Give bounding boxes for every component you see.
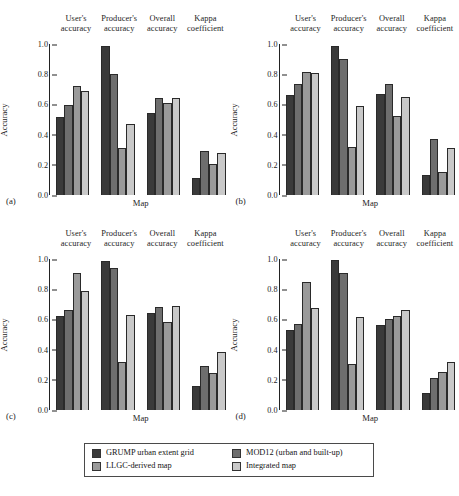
group-header-line1: Overall [149, 229, 175, 238]
bar [438, 372, 446, 410]
y-tick-label: 0.2 [38, 160, 48, 169]
bar-group [192, 44, 225, 195]
y-tick-label: 0.2 [267, 160, 277, 169]
y-tick-label: 0.0 [267, 191, 277, 200]
bar [209, 164, 217, 195]
group-header-line1: Kappa [194, 14, 216, 23]
bar [64, 105, 72, 195]
bar [286, 330, 294, 410]
legend-item-llgc: LLGC-derived map [92, 461, 226, 471]
group-header-line1: Producer's [101, 14, 137, 23]
plot-area-d: 1.00.80.60.40.20.0 Accuracy [286, 259, 456, 410]
bar-group [331, 44, 364, 195]
group-header-kappa-coefficient: Kappa coefficient [185, 14, 225, 44]
bar [192, 178, 200, 195]
group-header-line1: Producer's [331, 14, 367, 23]
bar [356, 317, 364, 410]
group-header-line2: coefficient [415, 239, 455, 249]
group-header-line2: accuracy [329, 239, 369, 249]
bar-group [101, 44, 134, 195]
bar [118, 362, 126, 410]
group-header-line1: Producer's [101, 229, 137, 238]
y-axis-label: Accuracy [0, 318, 9, 351]
bar [64, 310, 72, 410]
y-tick-label: 0.2 [38, 375, 48, 384]
x-axis-label: Map [286, 198, 456, 208]
panel-grid: User's accuracy Producer's accuracy Over… [0, 0, 459, 430]
group-header-kappa-coefficient: Kappa coefficient [415, 14, 455, 44]
bar-group [286, 44, 319, 195]
group-header-line1: User's [65, 229, 86, 238]
plot-area-b: 1.00.80.60.40.20.0 Accuracy [286, 44, 456, 195]
legend-item-integrated: Integrated map [232, 461, 366, 471]
panel-tag-d: (d) [236, 411, 246, 421]
y-axis-label: Accuracy [229, 318, 239, 351]
group-header-line2: accuracy [329, 24, 369, 34]
group-header-overall-accuracy: Overall accuracy [372, 14, 412, 44]
y-axis-ticks-c: 1.00.80.60.40.20.0 [16, 259, 48, 410]
bar [56, 316, 64, 410]
group-header-line2: accuracy [56, 239, 96, 249]
bar [385, 84, 393, 195]
plot-area-a: 1.00.80.60.40.20.0 Accuracy [56, 44, 226, 195]
bar [311, 73, 319, 195]
figure-accuracy-comparison: User's accuracy Producer's accuracy Over… [0, 0, 459, 496]
group-header-kappa-coefficient: Kappa coefficient [185, 229, 225, 259]
y-tick-label: 1.0 [38, 255, 48, 264]
bar-group [56, 259, 89, 410]
bar [172, 98, 180, 195]
bar [430, 139, 438, 195]
bar-group [331, 259, 364, 410]
bar-group [147, 259, 180, 410]
group-header-line2: accuracy [56, 24, 96, 34]
bar [126, 315, 134, 410]
bar-group [422, 44, 455, 195]
y-tick-label: 1.0 [38, 40, 48, 49]
bar [286, 95, 294, 195]
group-header-users-accuracy: User's accuracy [56, 14, 96, 44]
group-headers-c: User's accuracy Producer's accuracy Over… [56, 229, 226, 259]
group-headers-d: User's accuracy Producer's accuracy Over… [286, 229, 456, 259]
bar [118, 148, 126, 195]
bar [348, 364, 356, 410]
y-axis-line [279, 259, 280, 410]
group-header-line1: User's [65, 14, 86, 23]
group-header-producers-accuracy: Producer's accuracy [99, 229, 139, 259]
legend-swatch-icon [232, 449, 241, 458]
bar [393, 316, 401, 410]
panel-b: User's accuracy Producer's accuracy Over… [230, 0, 459, 215]
y-tick-label: 0.0 [267, 406, 277, 415]
bar [200, 366, 208, 410]
y-axis-line [49, 259, 50, 410]
group-header-line1: Kappa [424, 14, 446, 23]
y-tick-label: 0.6 [38, 315, 48, 324]
bar [356, 106, 364, 195]
bar [339, 59, 347, 195]
legend-label: GRUMP urban extent grid [106, 448, 194, 458]
panel-a: User's accuracy Producer's accuracy Over… [0, 0, 230, 215]
bar [294, 324, 302, 410]
group-header-users-accuracy: User's accuracy [286, 14, 326, 44]
y-tick-label: 0.8 [38, 70, 48, 79]
legend-label: MOD12 (urban and built-up) [246, 448, 343, 458]
group-header-line1: Overall [379, 14, 405, 23]
group-header-overall-accuracy: Overall accuracy [142, 229, 182, 259]
group-header-overall-accuracy: Overall accuracy [142, 14, 182, 44]
bar [447, 362, 455, 410]
bar [438, 172, 446, 195]
bar [393, 116, 401, 195]
y-tick-label: 0.4 [38, 345, 48, 354]
x-axis-label: Map [56, 198, 226, 208]
bar-group [56, 44, 89, 195]
legend-swatch-icon [232, 462, 241, 471]
bar [147, 313, 155, 410]
group-header-line1: User's [295, 14, 316, 23]
legend-label: Integrated map [246, 461, 296, 471]
bar [376, 94, 384, 195]
y-axis-label: Accuracy [0, 103, 9, 136]
bar [73, 86, 81, 195]
legend-item-mod12: MOD12 (urban and built-up) [232, 448, 366, 458]
y-tick-label: 0.4 [267, 130, 277, 139]
bar-groups-a [56, 44, 226, 195]
bar [401, 97, 409, 195]
